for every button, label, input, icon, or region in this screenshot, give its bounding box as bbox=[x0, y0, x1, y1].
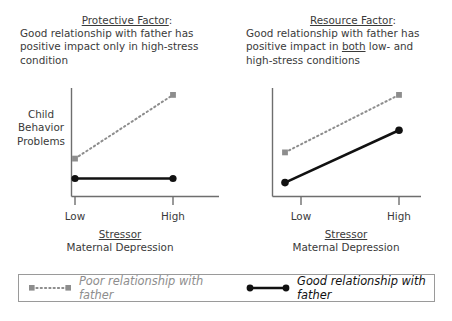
panel-caption-protective: Protective Factor: Good relationship wit… bbox=[20, 14, 234, 67]
panel-caption-protective-body: Good relationship with father has positi… bbox=[20, 27, 234, 67]
tick-label-low: Low bbox=[280, 210, 322, 222]
series-poor-line bbox=[285, 95, 399, 152]
series-good-marker-low bbox=[281, 179, 289, 187]
plot-protective-canvas bbox=[20, 84, 220, 224]
tick-label-high: High bbox=[378, 210, 420, 222]
panel-caption-resource-body: Good relationship with father has positi… bbox=[246, 27, 452, 67]
series-poor-line bbox=[75, 95, 173, 159]
plot-resource-canvas bbox=[246, 84, 446, 224]
legend-label-poor: Poor relationship with father bbox=[79, 274, 212, 302]
tick-label-low: Low bbox=[54, 210, 96, 222]
series-good-marker-high bbox=[169, 175, 176, 182]
x-axis-title-resource: Stressor Maternal Depression bbox=[246, 228, 446, 255]
plot-protective bbox=[20, 84, 220, 224]
caption-line-2-pre: positive impact in bbox=[246, 40, 342, 52]
x-axis-title-main: Stressor bbox=[246, 228, 446, 241]
caption-line-3: condition bbox=[20, 54, 68, 66]
series-poor-marker-low bbox=[72, 156, 78, 162]
series-good-line bbox=[285, 130, 399, 182]
caption-line-2: positive impact only in high-stress bbox=[20, 40, 198, 52]
panel-title-resource: Resource Factor: bbox=[246, 14, 452, 27]
panel-title-resource-text: Resource Factor bbox=[310, 14, 393, 26]
series-good-marker-high bbox=[395, 126, 403, 134]
panel-caption-resource: Resource Factor: Good relationship with … bbox=[246, 14, 452, 67]
panel-title-protective-text: Protective Factor bbox=[82, 14, 169, 26]
tick-label-high: High bbox=[152, 210, 194, 222]
panel-title-resource-colon: : bbox=[393, 14, 397, 26]
legend-item-good-relationship: Good relationship with father bbox=[246, 274, 434, 302]
caption-line-2-emphasis: both bbox=[342, 40, 366, 52]
plot-resource bbox=[246, 84, 446, 224]
x-axis-title-sub: Maternal Depression bbox=[246, 241, 446, 254]
series-good-marker-low bbox=[71, 175, 78, 182]
x-axis-title-sub: Maternal Depression bbox=[20, 241, 220, 254]
dotted-line-swatch-icon bbox=[28, 283, 72, 293]
panel-title-protective: Protective Factor: bbox=[20, 14, 234, 27]
series-poor-marker-high bbox=[170, 92, 176, 98]
legend-label-good: Good relationship with father bbox=[297, 274, 434, 302]
caption-line-2-post: low- and bbox=[366, 40, 414, 52]
figure-legend: Poor relationship with father Good relat… bbox=[18, 274, 435, 302]
caption-line-1: Good relationship with father has bbox=[246, 27, 419, 39]
two-panel-line-figure: Protective Factor: Good relationship wit… bbox=[0, 0, 452, 321]
legend-item-poor-relationship: Poor relationship with father bbox=[28, 274, 212, 302]
caption-line-3: high-stress conditions bbox=[246, 54, 360, 66]
panel-title-protective-colon: : bbox=[169, 14, 173, 26]
caption-line-1: Good relationship with father has bbox=[20, 27, 193, 39]
series-poor-marker-high bbox=[396, 92, 402, 98]
x-axis-title-main: Stressor bbox=[20, 228, 220, 241]
solid-line-swatch-icon bbox=[246, 283, 290, 293]
x-axis-title-protective: Stressor Maternal Depression bbox=[20, 228, 220, 255]
series-poor-marker-low bbox=[282, 150, 288, 156]
